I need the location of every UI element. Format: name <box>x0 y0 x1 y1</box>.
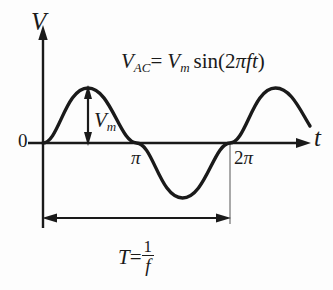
double-arrow-horizontal-icon-left <box>42 214 57 223</box>
x-tick-label-pi: π <box>131 147 141 169</box>
amplitude-label: Vm <box>94 108 116 135</box>
ac-waveform-figure <box>0 0 333 290</box>
arrow-right-icon <box>296 138 311 148</box>
period-equals: = <box>130 245 142 269</box>
double-arrow-horizontal-icon-right <box>216 214 231 223</box>
equation-amp-sub: m <box>180 60 189 75</box>
equation-sin-open: sin(2 <box>194 49 236 73</box>
pi-glyph: π <box>244 147 254 168</box>
x-tick-label-2pi: 2π <box>234 147 253 169</box>
equation-equals: = <box>150 49 162 73</box>
period-label: T=1f <box>118 238 154 276</box>
two-glyph: 2 <box>234 147 244 168</box>
period-var: T <box>118 245 130 269</box>
period-fraction: 1f <box>142 238 155 276</box>
equation-close-paren: ) <box>258 49 265 73</box>
equation-ft: ft <box>246 49 258 73</box>
period-numerator: 1 <box>142 238 155 256</box>
amplitude-var: V <box>94 108 107 132</box>
y-axis-label: V <box>31 8 46 36</box>
equation-lhs-var: V <box>121 49 134 73</box>
equation-pi: π <box>236 49 247 73</box>
origin-label: 0 <box>18 130 28 152</box>
period-denominator: f <box>142 256 155 275</box>
equation-annotation: VAC=Vmsin(2πft) <box>121 49 265 76</box>
equation-amp-var: V <box>167 49 180 73</box>
equation-lhs-sub: AC <box>134 60 151 75</box>
x-axis-label: t <box>314 124 321 152</box>
amplitude-sub: m <box>107 119 116 134</box>
